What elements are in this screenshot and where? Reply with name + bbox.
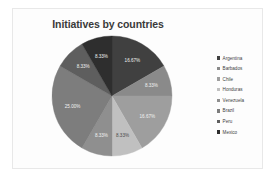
- pie-slice-label: 16.67%: [125, 58, 141, 63]
- legend-swatch-icon: [217, 109, 220, 112]
- pie-slice-label: 25.00%: [65, 104, 81, 109]
- legend-swatch-icon: [217, 67, 220, 70]
- pie-slice-group: [52, 36, 172, 156]
- pie-slice-label: 8.33%: [77, 64, 90, 69]
- chart-title: Initiatives by countries: [13, 18, 203, 30]
- pie-svg: 16.67%8.33%16.67%8.33%8.33%25.00%8.33%8.…: [51, 35, 173, 157]
- legend-item[interactable]: Barbados: [217, 64, 275, 74]
- legend-item[interactable]: Venezuela: [217, 95, 275, 105]
- pie-slice-label: 8.33%: [95, 54, 108, 59]
- legend-item-label: Barbados: [223, 66, 243, 71]
- legend-swatch-icon: [217, 56, 220, 59]
- chart-legend: ArgentinaBarbadosChileHondurasVenezuelaB…: [217, 53, 275, 138]
- pie-slice-label: 8.33%: [95, 133, 108, 138]
- legend-swatch-icon: [217, 130, 220, 133]
- legend-item-label: Chile: [223, 77, 233, 82]
- legend-item-label: Peru: [223, 119, 233, 124]
- legend-item-label: Honduras: [223, 87, 243, 92]
- legend-item-label: Venezuela: [223, 98, 244, 103]
- legend-swatch-icon: [217, 120, 220, 123]
- legend-item[interactable]: Peru: [217, 117, 275, 127]
- pie-slice-label: 8.33%: [116, 133, 129, 138]
- legend-swatch-icon: [217, 88, 220, 91]
- legend-item[interactable]: Honduras: [217, 85, 275, 95]
- legend-swatch-icon: [217, 77, 220, 80]
- pie-slice-label: 8.33%: [145, 83, 158, 88]
- chart-card: Initiatives by countries 16.67%8.33%16.6…: [12, 8, 263, 169]
- pie-chart: 16.67%8.33%16.67%8.33%8.33%25.00%8.33%8.…: [51, 35, 173, 157]
- pie-slice-label: 16.67%: [140, 114, 156, 119]
- legend-item[interactable]: Chile: [217, 74, 275, 84]
- legend-item-label: Brazil: [223, 108, 235, 113]
- legend-item[interactable]: Argentina: [217, 53, 275, 63]
- legend-item[interactable]: Brazil: [217, 106, 275, 116]
- legend-item[interactable]: Mexico: [217, 127, 275, 137]
- legend-item-label: Argentina: [223, 56, 243, 61]
- legend-swatch-icon: [217, 99, 220, 102]
- legend-item-label: Mexico: [223, 130, 238, 135]
